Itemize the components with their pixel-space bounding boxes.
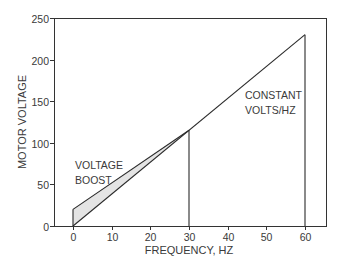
chart-container: 050100150200250 0102030405060 FREQUENCY,… bbox=[0, 0, 346, 269]
y-tick-label: 0 bbox=[43, 221, 49, 233]
annotation-constant-vhz-line1: CONSTANT bbox=[245, 89, 303, 101]
y-tick-label: 150 bbox=[31, 96, 49, 108]
y-axis-title: MOTOR VOLTAGE bbox=[16, 75, 28, 169]
y-tick-label: 250 bbox=[31, 13, 49, 25]
x-tick-label: 20 bbox=[145, 231, 157, 243]
x-axis-title: FREQUENCY, HZ bbox=[145, 244, 234, 256]
y-axis-ticks: 050100150200250 bbox=[31, 13, 54, 233]
x-tick-label: 50 bbox=[261, 231, 273, 243]
chart-svg: 050100150200250 0102030405060 FREQUENCY,… bbox=[0, 0, 346, 269]
data-lines bbox=[73, 35, 305, 226]
x-tick-label: 60 bbox=[300, 231, 312, 243]
x-tick-label: 40 bbox=[223, 231, 235, 243]
y-tick-label: 100 bbox=[31, 138, 49, 150]
x-tick-label: 0 bbox=[71, 231, 77, 243]
y-tick-label: 50 bbox=[37, 179, 49, 191]
x-tick-label: 30 bbox=[184, 231, 196, 243]
x-tick-label: 10 bbox=[107, 231, 119, 243]
annotation-constant-vhz-line2: VOLTS/HZ bbox=[245, 104, 296, 116]
y-tick-label: 200 bbox=[31, 55, 49, 67]
x-axis-ticks: 0102030405060 bbox=[71, 226, 312, 243]
annotation-voltage-boost-line1: VOLTAGE bbox=[75, 159, 123, 171]
annotation-voltage-boost-line2: BOOST bbox=[75, 174, 112, 186]
